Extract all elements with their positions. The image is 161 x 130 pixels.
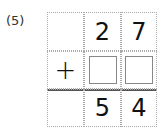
answer-box-ones[interactable]: [125, 56, 153, 84]
cell-r2-c3: [121, 51, 157, 89]
plus-sign: +: [47, 51, 84, 89]
cell-r1-c2: 2: [84, 12, 121, 51]
cell-r1-c1: [47, 12, 84, 51]
problem-number: (5): [6, 13, 24, 28]
cell-r3-c3: 4: [121, 89, 157, 127]
cell-r3-c1: [47, 89, 84, 127]
addition-grid: 2 7 + 5 4: [47, 12, 157, 127]
cell-r1-c3: 7: [121, 12, 157, 51]
answer-box-tens[interactable]: [89, 56, 117, 84]
cell-r2-c2: [84, 51, 121, 89]
cell-r3-c2: 5: [84, 89, 121, 127]
